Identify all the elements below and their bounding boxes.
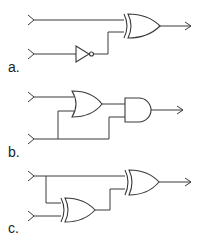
wire-a-not-out bbox=[94, 32, 125, 54]
circuit-c: c. bbox=[8, 170, 191, 236]
not-gate-bubble bbox=[90, 52, 94, 56]
logic-circuits-diagram: a. b. bbox=[0, 0, 202, 242]
circuit-label-b: b. bbox=[8, 144, 20, 160]
xor-gate-upper-back-curve bbox=[125, 170, 128, 195]
input-c2-arrow-icon bbox=[28, 211, 34, 221]
and-gate bbox=[125, 98, 151, 122]
xor-gate-lower bbox=[65, 198, 95, 222]
or-gate bbox=[72, 91, 102, 117]
not-gate bbox=[76, 46, 89, 62]
xor-gate-lower-back-curve bbox=[61, 198, 64, 222]
circuit-label-a: a. bbox=[8, 59, 20, 75]
input-b1-arrow-icon bbox=[28, 92, 34, 102]
circuit-label-c: c. bbox=[8, 220, 19, 236]
circuit-a: a. bbox=[8, 14, 191, 75]
input-c1-arrow-icon bbox=[28, 171, 34, 181]
wire-c1-branch bbox=[46, 176, 61, 203]
circuit-b: b. bbox=[8, 91, 183, 160]
xor-gate-upper bbox=[129, 170, 159, 195]
wire-b2-to-and bbox=[109, 117, 125, 139]
wire-c-xor1-out bbox=[95, 189, 125, 210]
xor-gate bbox=[128, 14, 160, 38]
input-b2-arrow-icon bbox=[28, 134, 34, 144]
wire-b2-to-or bbox=[58, 111, 74, 139]
xor-gate-back-curve bbox=[124, 14, 127, 38]
input-a2-arrow-icon bbox=[28, 49, 34, 59]
input-a1-arrow-icon bbox=[28, 15, 34, 25]
